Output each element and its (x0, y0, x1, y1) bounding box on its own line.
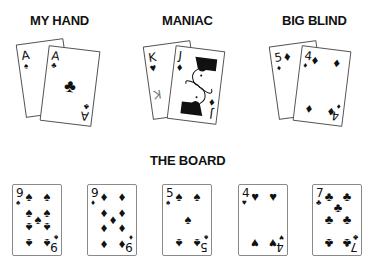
heart-icon: ♥ (242, 199, 247, 207)
spade-icon: ♠ (166, 199, 170, 207)
club-icon: ♣ (343, 213, 352, 226)
spade-icon: ♠ (44, 221, 51, 234)
board-card-five-of-spades: 5 ♠ ♠ ♠ ♠ ♠ ♠ ♠ 5 (162, 184, 212, 256)
spade-icon: ♠ (26, 221, 33, 234)
card-rank: 4 (331, 109, 340, 122)
heart-icon: ♥ (149, 63, 157, 72)
club-icon: ♣ (316, 199, 321, 207)
card-rank: J (209, 108, 214, 120)
diamond-icon: ♦ (303, 62, 308, 70)
card-rank: 4 (276, 241, 284, 253)
spade-icon: ♠ (35, 213, 42, 226)
board-label: THE BOARD (150, 153, 225, 168)
board-card-four-of-hearts: 4 ♥ ♥ ♥ ♥ ♥ ♥ 4 (238, 184, 288, 256)
card-rank: 5 (200, 241, 208, 253)
card-four-of-diamonds: 4 ♦ ♦ ♦ ♦ ♦ ♦ 4 (293, 45, 352, 127)
board-card-nine-of-spades: 9 ♠ ♠ ♠ ♠ ♠ ♠ ♠ ♠ ♠ ♠ ♠ 9 (12, 184, 62, 256)
card-jack-of-diamonds: J ♦ ♦ J (167, 45, 226, 125)
spade-icon: ♠ (16, 199, 20, 207)
diamond-icon: ♦ (119, 190, 126, 203)
spade-icon: ♠ (26, 237, 33, 250)
diamond-icon: ♦ (283, 49, 291, 63)
club-icon: ♣ (343, 190, 352, 203)
spade-icon: ♠ (185, 213, 192, 226)
spade-icon: ♠ (23, 62, 28, 71)
heart-icon: ♥ (269, 190, 277, 203)
card-rank: 9 (50, 241, 58, 253)
card-rank: 9 (125, 241, 133, 253)
club-icon: ♣ (334, 201, 343, 214)
card-rank: A (20, 49, 30, 62)
diamond-icon: ♦ (91, 199, 95, 207)
my-hand-label: MY HAND (30, 13, 89, 28)
spade-icon: ♠ (44, 190, 51, 203)
diamond-icon: ♦ (119, 221, 126, 234)
diamond-icon: ♦ (110, 213, 117, 226)
card-rank: 7 (350, 241, 358, 253)
diamond-icon: ♦ (101, 221, 108, 234)
heart-icon: ♥ (251, 190, 259, 203)
board-card-seven-of-clubs: 7 ♣ ♣ ♣ ♣ ♣ ♣ ♣ ♣ ♣ 7 (312, 184, 362, 256)
club-icon: ♣ (325, 190, 334, 203)
diamond-icon: ♦ (305, 103, 313, 117)
club-icon: ♣ (325, 213, 334, 226)
card-rank: A (80, 110, 90, 123)
diamond-icon: ♦ (119, 206, 126, 219)
club-icon: ♣ (63, 76, 77, 95)
card-ace-of-clubs: A ♣ ♣ ♣ A (40, 45, 101, 127)
diamond-icon: ♦ (101, 190, 108, 203)
spade-icon: ♠ (176, 237, 183, 250)
board-card-nine-of-diamonds: 9 ♦ ♦ ♦ ♦ ♦ ♦ ♦ ♦ ♦ ♦ ♦ 9 (87, 184, 137, 256)
club-icon: ♣ (51, 62, 57, 71)
card-rank: 5 (273, 51, 282, 64)
spade-icon: ♠ (176, 190, 183, 203)
diamond-icon: ♦ (333, 56, 341, 70)
spade-icon: ♠ (44, 206, 51, 219)
diamond-icon: ♦ (311, 53, 319, 67)
spade-icon: ♠ (194, 190, 201, 203)
club-icon: ♣ (325, 237, 334, 250)
diamond-icon: ♦ (177, 63, 184, 72)
diamond-icon: ♦ (276, 64, 281, 72)
card-rank: K (153, 88, 162, 101)
spade-icon: ♠ (26, 206, 33, 219)
big-blind-label: BIG BLIND (282, 13, 347, 28)
diamond-icon: ♦ (101, 237, 108, 250)
spade-icon: ♠ (26, 190, 33, 203)
diamond-icon: ♦ (101, 206, 108, 219)
heart-icon: ♥ (251, 237, 259, 250)
maniac-label: MANIAC (162, 13, 213, 28)
